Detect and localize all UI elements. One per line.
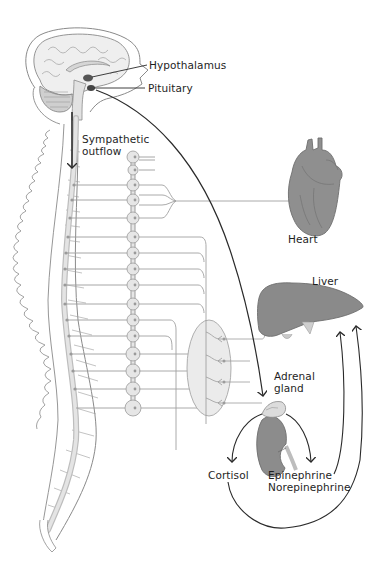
- kidney: [257, 416, 296, 477]
- label-adrenal-1: Adrenal: [274, 370, 315, 382]
- pituitary-marker: [87, 85, 95, 91]
- label-pituitary: Pituitary: [148, 82, 193, 94]
- label-sympathetic-outflow-1: Sympathetic: [82, 133, 149, 145]
- vertebral-column: [13, 118, 98, 552]
- spinal-nerve-lines: [65, 185, 132, 408]
- label-hypothalamus: Hypothalamus: [149, 59, 226, 71]
- label-liver: Liver: [312, 275, 338, 287]
- label-cortisol: Cortisol: [208, 469, 249, 481]
- label-norepinephrine: Norepinephrine: [268, 481, 351, 493]
- label-sympathetic-outflow-2: outflow: [82, 145, 122, 157]
- hypothalamus-marker: [83, 75, 93, 82]
- epinephrine-to-liver-arrow: [334, 332, 344, 474]
- label-heart: Heart: [288, 233, 318, 245]
- label-adrenal-2: gland: [274, 382, 304, 394]
- adrenal-gland: [262, 402, 286, 418]
- head-brain: [26, 28, 148, 124]
- cardiac-nerves: [139, 185, 302, 218]
- label-epinephrine: Epinephrine: [268, 469, 332, 481]
- liver: [258, 283, 364, 339]
- heart: [288, 138, 342, 236]
- sympathetic-chain: [125, 151, 141, 416]
